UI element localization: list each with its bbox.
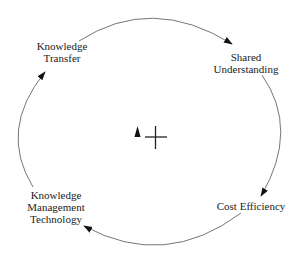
node-shared-understanding: Shared Understanding xyxy=(214,51,279,75)
causal-loop-diagram: Knowledge Transfer Shared Understanding … xyxy=(0,0,299,256)
link-km-technology-to-knowledge-transfer xyxy=(18,72,45,187)
polarity-plus-icon xyxy=(145,126,167,149)
link-cost-efficiency-to-km-technology xyxy=(84,213,241,245)
node-knowledge-transfer: Knowledge Transfer xyxy=(37,40,88,64)
node-label-line: Management xyxy=(27,201,84,213)
node-label-line: Knowledge xyxy=(27,189,84,201)
loop-direction-triangle-icon xyxy=(135,126,141,137)
node-label-line: Technology xyxy=(27,213,84,225)
link-knowledge-transfer-to-shared-understanding xyxy=(79,18,232,44)
node-label-line: Transfer xyxy=(37,52,88,64)
link-shared-understanding-to-cost-efficiency xyxy=(261,75,281,196)
node-label-line: Knowledge xyxy=(37,40,88,52)
node-label-line: Shared xyxy=(214,51,279,63)
node-cost-efficiency: Cost Efficiency xyxy=(217,200,286,212)
node-label-line: Understanding xyxy=(214,63,279,75)
node-km-technology: Knowledge Management Technology xyxy=(27,189,84,225)
node-label-line: Cost Efficiency xyxy=(217,200,286,212)
loop-marker xyxy=(135,126,168,149)
